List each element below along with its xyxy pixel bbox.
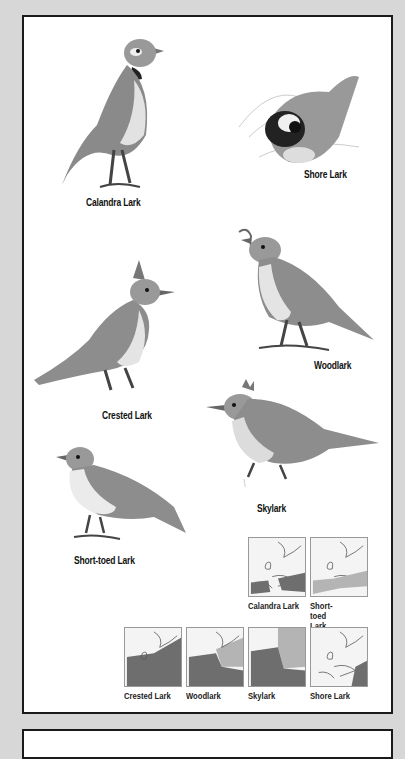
- bird-name: Shore Lark: [304, 169, 347, 180]
- illustration-plate: Calandra Lark Shore Lark Woodlark Creste…: [22, 15, 393, 714]
- range-map-skylark: [248, 627, 306, 687]
- bird-name: Woodlark: [314, 360, 351, 371]
- range-map-calandra-lark: [248, 537, 306, 597]
- map-label: Woodlark: [186, 691, 221, 701]
- shore-lark-illustration: [229, 67, 369, 177]
- bird-name: Crested Lark: [102, 410, 152, 421]
- range-map-shore-lark: [310, 627, 368, 687]
- woodlark-illustration: [229, 222, 379, 362]
- range-map-woodlark: [186, 627, 244, 687]
- map-label: Calandra Lark: [248, 601, 299, 611]
- map-label: Crested Lark: [124, 691, 171, 701]
- bird-name: Short-toed Lark: [74, 555, 135, 566]
- range-map-short-toed-lark: [310, 537, 368, 597]
- range-map-crested-lark: [124, 627, 182, 687]
- map-label: Skylark: [248, 691, 275, 701]
- map-label: Shore Lark: [310, 691, 350, 701]
- calandra-lark-illustration: [42, 25, 182, 195]
- bird-name: Calandra Lark: [86, 197, 140, 208]
- crested-lark-illustration: [29, 250, 189, 400]
- bird-name: Skylark: [257, 503, 286, 514]
- next-plate-edge: [22, 729, 393, 759]
- skylark-illustration: [204, 377, 384, 487]
- short-toed-lark-illustration: [54, 437, 194, 547]
